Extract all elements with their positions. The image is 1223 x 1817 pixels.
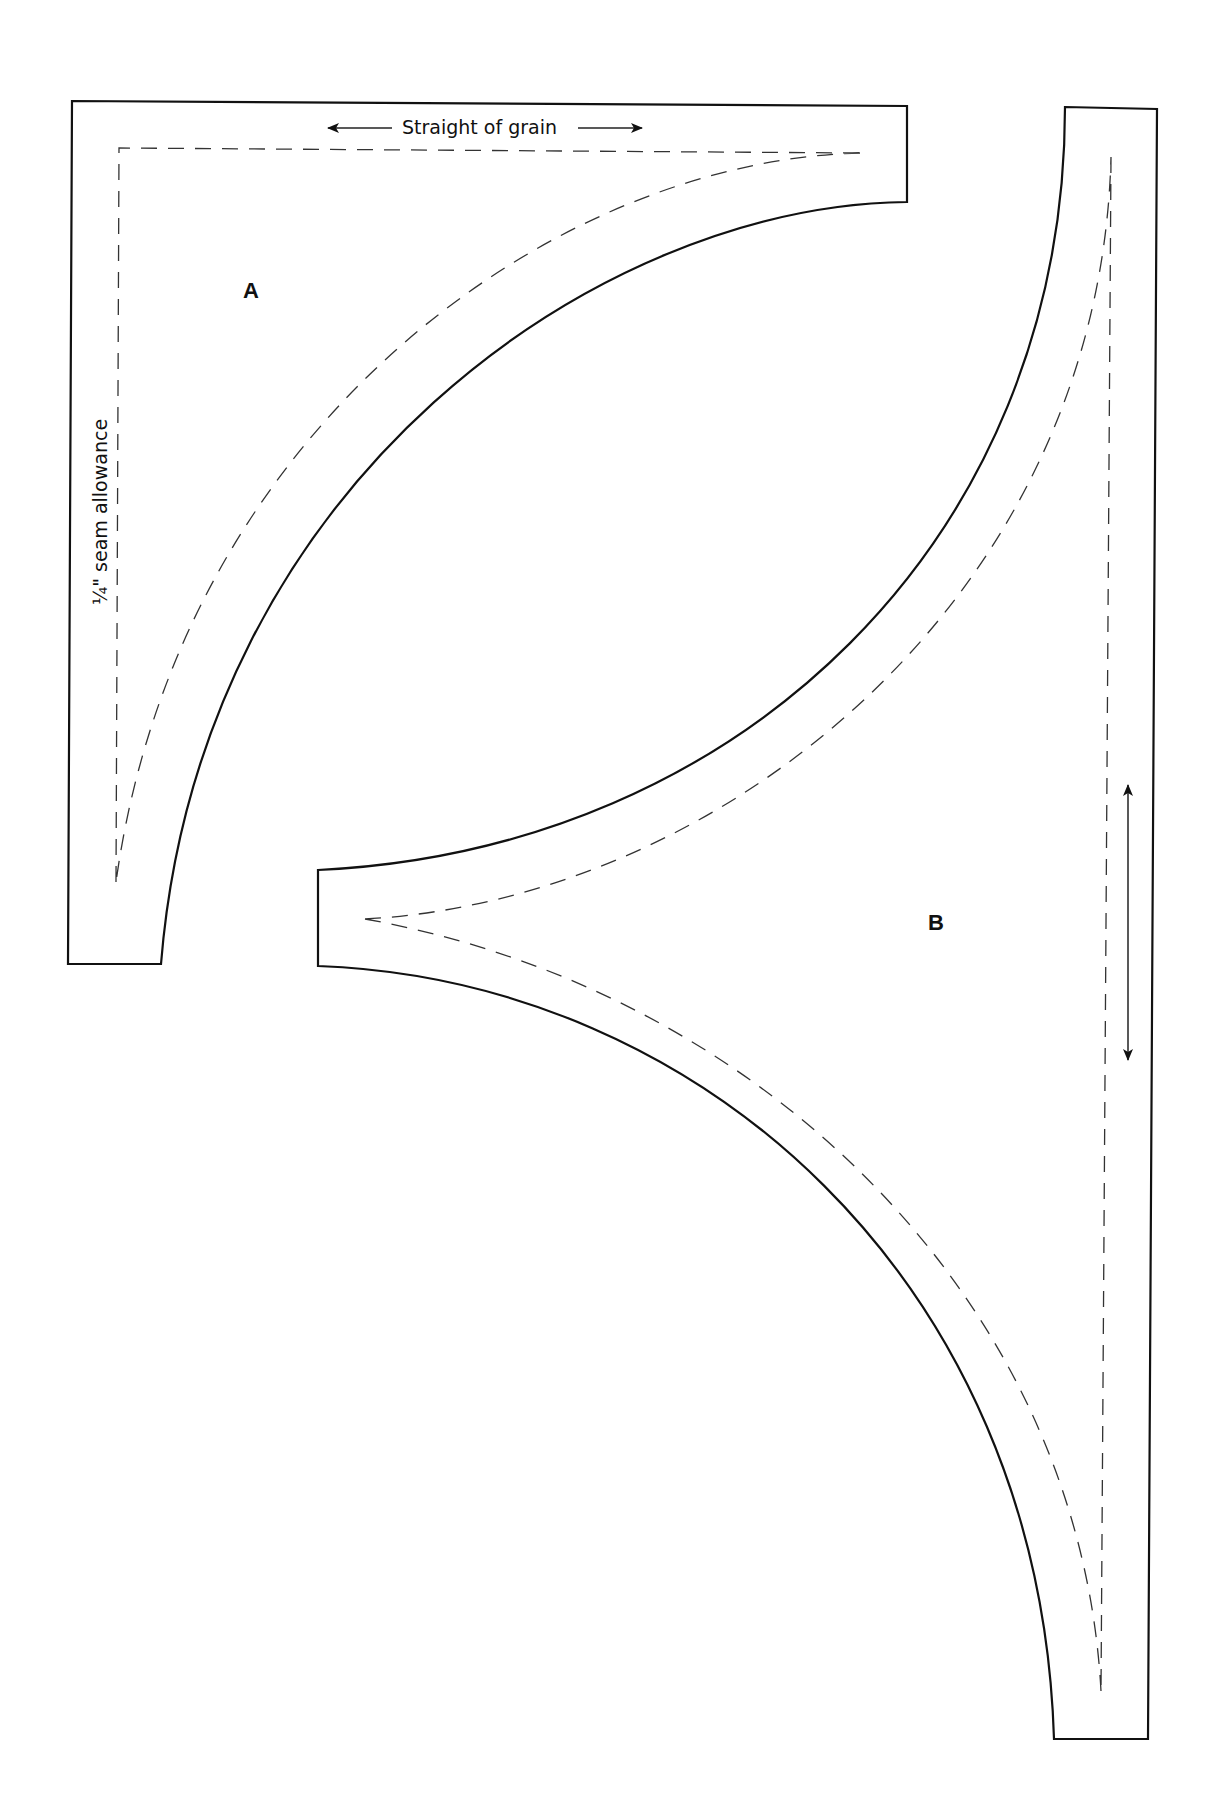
piece-b-label: B: [928, 910, 944, 936]
piece-a: [68, 101, 907, 964]
piece-a-seam-line: [116, 148, 860, 882]
grain-label: Straight of grain: [402, 116, 557, 138]
piece-b-seam-line: [365, 157, 1111, 1691]
piece-b: [318, 107, 1157, 1739]
pattern-canvas: [0, 0, 1223, 1817]
piece-b-cut-line: [318, 107, 1157, 1739]
piece-a-cut-line: [68, 101, 907, 964]
seam-allowance-label: ¼" seam allowance: [89, 419, 111, 605]
piece-a-label: A: [243, 278, 259, 304]
